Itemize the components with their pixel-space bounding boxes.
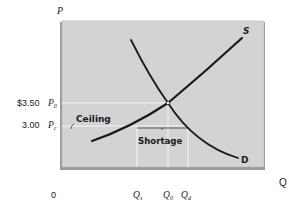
ceiling-label: Ceiling [76,114,111,124]
p0-symbol: P0 [47,98,57,109]
equilibrium-point [166,101,170,105]
qd-label: Qd [181,190,192,201]
price-ceiling-chart: P Q 0 $3.50 P0 3.00 Pc Ceiling Shortage … [0,0,289,210]
x-axis-label: Q [279,177,287,188]
origin-label: 0 [51,190,56,200]
p0-value-label: $3.50 [17,98,40,108]
shortage-label: Shortage [138,136,183,146]
demand-label: D [241,155,248,165]
pc-symbol: Pc [47,120,57,131]
supply-label: S [243,26,249,36]
pc-value-label: 3.00 [22,120,40,130]
q0-label: Q0 [163,190,173,201]
qs-label: Qs [133,190,143,201]
y-axis-label: P [56,5,63,16]
